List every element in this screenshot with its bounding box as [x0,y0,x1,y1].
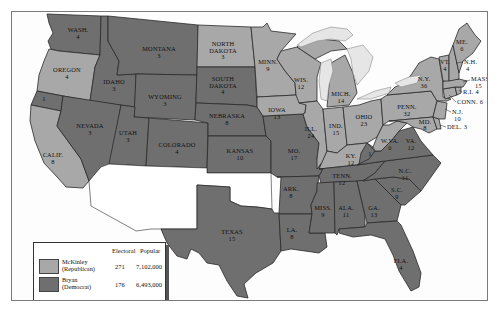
legend-col-popular: Popular [140,247,160,254]
svg-text:MASS.15: MASS.15 [471,75,488,89]
svg-text:N.J.10: N.J.10 [452,108,463,122]
svg-text:N.H.4: N.H.4 [464,58,477,72]
state-florida[interactable] [339,221,421,291]
map-frame: WASH.4 OREGON4 1 CALIF.8 IDAHO3 NEVADA3 … [11,11,488,301]
legend-candidate-name: Bryan(Democrat) [62,277,91,290]
svg-text:1: 1 [42,95,45,102]
svg-text:1: 1 [368,150,371,157]
svg-text:DEL.3: DEL.3 [447,123,467,130]
legend-row-democrat: Bryan(Democrat) 176 6,493,000 [39,277,163,292]
legend-electoral-votes: 176 [115,281,125,288]
legend-electoral-votes: 271 [115,263,125,270]
svg-text:R.I.4: R.I.4 [463,88,479,95]
legend-col-electoral: Electoral [112,247,135,254]
svg-text:CONN.6: CONN.6 [457,98,483,105]
legend-swatch-democrat [39,277,59,292]
state-washington[interactable] [47,14,101,55]
legend: Electoral Popular McKinley(Republican) 2… [33,242,166,301]
legend-row-republican: McKinley(Republican) 271 7,102,000 [39,259,163,274]
legend-candidate-name: McKinley(Republican) [62,259,95,272]
legend-popular-votes: 6,493,000 [136,281,162,288]
legend-popular-votes: 7,102,000 [136,263,162,270]
legend-swatch-republican [39,259,59,274]
